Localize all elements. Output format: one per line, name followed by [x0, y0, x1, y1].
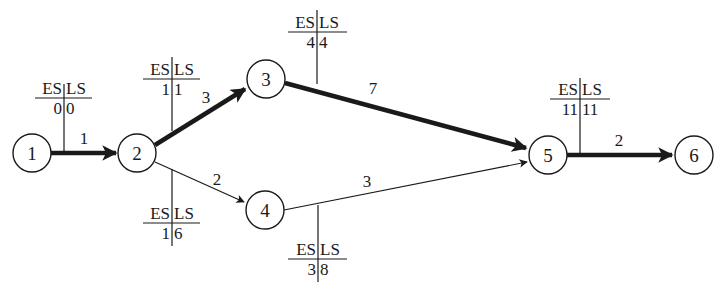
es-ls-table-activity-4-5: ES LS 3 8 — [288, 205, 347, 282]
es-header: ES — [558, 80, 578, 99]
ls-header: LS — [319, 13, 339, 32]
es-ls-table-activity-2-4: ES LS 1 6 — [143, 169, 200, 246]
node-label: 6 — [689, 145, 699, 166]
node-label: 1 — [27, 143, 37, 164]
ls-header: LS — [320, 240, 340, 259]
es-header: ES — [150, 60, 170, 79]
edge-1-2: 1 — [51, 129, 116, 153]
node-label: 3 — [261, 69, 271, 90]
node-label: 4 — [260, 200, 270, 221]
ls-value: 8 — [320, 260, 329, 279]
es-value: 0 — [54, 99, 63, 118]
ls-header: LS — [174, 204, 194, 223]
duration-label: 7 — [369, 79, 378, 98]
edge-3-5: 7 — [285, 79, 526, 148]
es-header: ES — [295, 13, 315, 32]
es-header: ES — [42, 79, 62, 98]
node-4: 4 — [246, 191, 284, 229]
node-5: 5 — [529, 136, 567, 174]
ls-header: LS — [66, 79, 86, 98]
node-1: 1 — [13, 134, 51, 172]
edge-5-6: 2 — [567, 131, 672, 155]
duration-label: 3 — [202, 88, 211, 107]
duration-label: 2 — [615, 131, 624, 150]
es-value: 4 — [307, 33, 316, 52]
ls-value: 6 — [174, 224, 183, 243]
es-header: ES — [150, 204, 170, 223]
ls-value: 0 — [66, 99, 75, 118]
duration-label: 1 — [80, 129, 89, 148]
node-2: 2 — [118, 134, 156, 172]
es-ls-table-activity-3-5: ES LS 4 4 — [288, 10, 347, 84]
es-value: 1 — [162, 224, 171, 243]
es-value: 1 — [162, 80, 171, 99]
duration-label: 3 — [363, 172, 372, 191]
edge-4-5: 3 — [284, 162, 527, 210]
ls-header: LS — [174, 60, 194, 79]
node-label: 5 — [543, 145, 553, 166]
ls-value: 1 — [174, 80, 183, 99]
critical-path-network-diagram: ES LS 0 0 ES LS 1 1 ES LS 4 4 ES LS 1 6 … — [0, 0, 722, 291]
node-3: 3 — [247, 60, 285, 98]
ls-value: 11 — [582, 100, 598, 119]
es-value: 11 — [562, 100, 578, 119]
es-value: 3 — [308, 260, 317, 279]
ls-value: 4 — [319, 33, 328, 52]
node-6: 6 — [675, 136, 713, 174]
edge-2-4: 2 — [155, 162, 244, 202]
duration-label: 2 — [213, 170, 222, 189]
node-label: 2 — [132, 143, 142, 164]
ls-header: LS — [582, 80, 602, 99]
es-header: ES — [296, 240, 316, 259]
